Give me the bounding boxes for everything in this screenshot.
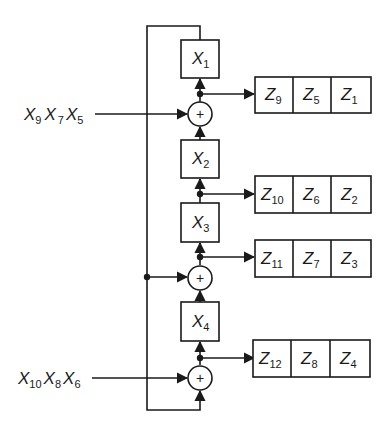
input-label-2: X10X8X6 [17,369,81,390]
svg-text:+: + [196,106,204,122]
svg-text:X10X8X6: X10X8X6 [17,369,81,390]
adder-2: + [188,266,212,290]
tap-2 [197,191,254,197]
output-register-2: Z10 Z6 Z2 [255,176,371,213]
cell-x2: X2 [181,140,219,178]
output-register-4: Z12 Z8 Z4 [253,340,370,377]
tap-3 [197,254,254,260]
input-label-1: X9X7X5 [23,105,83,126]
feedback-shift-register-diagram: X9X7X5 X10X8X6 X1 X2 X3 X4 + + + [0,0,391,427]
adder-3: + [188,366,212,390]
svg-text:+: + [196,270,204,286]
output-register-3: Z11 Z7 Z3 [255,240,371,277]
cell-x3: X3 [181,203,219,242]
feedback-branch-adder2 [144,274,187,280]
svg-text:+: + [196,370,204,386]
tap-4 [197,355,254,361]
svg-text:X9X7X5: X9X7X5 [23,105,83,126]
cell-x4: X4 [181,302,219,341]
tap-1 [197,91,254,97]
adder-1: + [188,102,212,126]
output-register-1: Z9 Z5 Z1 [255,77,371,113]
cell-x1: X1 [181,40,219,78]
